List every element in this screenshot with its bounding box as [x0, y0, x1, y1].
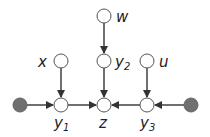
node-z — [97, 98, 111, 112]
node-x — [54, 54, 68, 68]
label-y2: y2 — [114, 53, 130, 72]
node-y2 — [97, 54, 111, 68]
node-y1 — [54, 98, 68, 112]
label-y1: y1 — [53, 114, 69, 133]
label-w: w — [116, 8, 129, 26]
label-x: x — [37, 53, 47, 71]
label-u: u — [159, 53, 169, 71]
label-y1-sub: 1 — [63, 122, 69, 133]
node-left-observed — [13, 98, 27, 112]
node-w — [97, 9, 111, 23]
label-y3-sub: 3 — [149, 122, 155, 133]
graph-canvas: w x y2 u y1 z y3 — [0, 0, 210, 137]
node-y3 — [140, 98, 154, 112]
node-u — [140, 54, 154, 68]
label-z: z — [98, 114, 108, 132]
label-y2-sub: 2 — [124, 61, 130, 72]
label-y3: y3 — [139, 114, 155, 133]
node-right-observed — [184, 98, 198, 112]
